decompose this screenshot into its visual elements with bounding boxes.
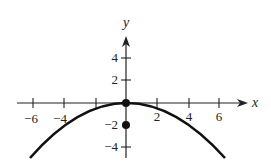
point-origin (122, 99, 130, 107)
y-axis-label: y (121, 15, 130, 30)
y-tick-label: −2 (104, 117, 118, 132)
y-tick-label: 4 (112, 50, 119, 65)
x-tick-label: −6 (24, 111, 38, 126)
x-tick-label: 6 (216, 109, 223, 124)
y-tick-label: −4 (104, 139, 118, 154)
y-tick-label: 2 (112, 72, 119, 87)
x-tick-label: 2 (154, 109, 161, 124)
x-tick-label: 4 (186, 109, 193, 124)
x-axis-label: x (251, 95, 259, 110)
point-neg2 (122, 121, 130, 129)
graph: −6 −4 2 4 6 4 2 −2 −4 x y (0, 0, 271, 166)
